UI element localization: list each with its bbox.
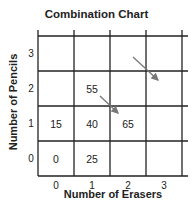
y-tick: 2: [24, 83, 38, 94]
cell-value: 25: [74, 153, 110, 165]
cell-value: 40: [74, 118, 110, 130]
combination-grid: [0, 0, 193, 205]
cell-value: 55: [74, 83, 110, 95]
cell-value: 15: [38, 118, 74, 130]
y-axis-label: Number of Pencils: [7, 47, 19, 157]
cell-value: 65: [110, 118, 146, 130]
y-tick: 1: [24, 118, 38, 129]
x-tick: 1: [85, 180, 99, 191]
x-tick: 2: [121, 180, 135, 191]
y-tick: 0: [24, 153, 38, 164]
cell-value: 0: [38, 153, 74, 165]
x-tick: 0: [49, 180, 63, 191]
y-tick: 3: [24, 48, 38, 59]
x-tick: 3: [157, 180, 171, 191]
arrow-icon: [100, 96, 118, 113]
